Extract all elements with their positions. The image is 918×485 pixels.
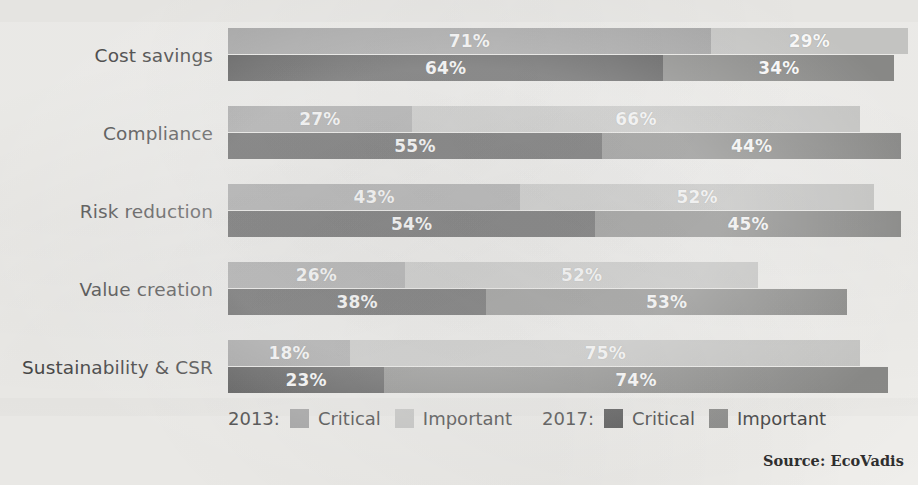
category-label: Compliance: [0, 123, 213, 144]
segment-value: 34%: [663, 55, 894, 81]
chart-legend: 2013: Critical Important 2017: Critical …: [228, 408, 840, 429]
category-label: Value creation: [0, 279, 213, 300]
segment-important-2013: 52%: [520, 184, 874, 210]
legend-label: Critical: [632, 408, 695, 429]
segment-critical-2013: 26%: [228, 262, 405, 288]
segment-important-2013: 29%: [711, 28, 908, 54]
legend-group-2017: Critical Important: [604, 408, 840, 429]
legend-item-critical-2017[interactable]: Critical: [604, 408, 695, 429]
legend-label: Important: [423, 408, 512, 429]
segment-important-2017: 74%: [384, 367, 887, 393]
segment-value: 53%: [486, 289, 846, 315]
segment-value: 66%: [412, 106, 861, 132]
segment-important-2013: 75%: [350, 340, 860, 366]
segment-critical-2017: 54%: [228, 211, 595, 237]
source-note: Source: EcoVadis: [763, 452, 904, 469]
category-label: Risk reduction: [0, 201, 213, 222]
legend-label: Important: [737, 408, 826, 429]
legend-item-important-2013[interactable]: Important: [395, 408, 512, 429]
legend-item-important-2017[interactable]: Important: [709, 408, 826, 429]
stacked-bar-chart: Cost savings 71% 29% 64% 34% Complia: [0, 0, 918, 485]
segment-critical-2017: 55%: [228, 133, 602, 159]
bar-group: 27% 66% 55% 44%: [228, 104, 908, 162]
segment-value: 64%: [228, 55, 663, 81]
segment-critical-2013: 18%: [228, 340, 350, 366]
bar-group: 26% 52% 38% 53%: [228, 260, 908, 318]
segment-value: 45%: [595, 211, 901, 237]
segment-critical-2017: 38%: [228, 289, 486, 315]
segment-important-2017: 34%: [663, 55, 894, 81]
chart-row: Value creation 26% 52% 38% 53%: [0, 260, 918, 318]
bar-2017: 23% 74%: [228, 367, 888, 393]
segment-important-2017: 45%: [595, 211, 901, 237]
bar-2013: 27% 66%: [228, 106, 860, 132]
segment-critical-2013: 43%: [228, 184, 520, 210]
segment-value: 29%: [711, 28, 908, 54]
segment-important-2017: 44%: [602, 133, 901, 159]
chart-row: Sustainability & CSR 18% 75% 23% 74%: [0, 338, 918, 396]
bar-2013: 71% 29%: [228, 28, 908, 54]
legend-swatch-critical-2017: [604, 409, 623, 428]
segment-critical-2017: 23%: [228, 367, 384, 393]
bar-2013: 26% 52%: [228, 262, 758, 288]
segment-important-2013: 66%: [412, 106, 861, 132]
bar-2017: 55% 44%: [228, 133, 901, 159]
legend-item-critical-2013[interactable]: Critical: [290, 408, 381, 429]
segment-critical-2013: 27%: [228, 106, 412, 132]
segment-value: 75%: [350, 340, 860, 366]
legend-swatch-critical-2013: [290, 409, 309, 428]
segment-critical-2013: 71%: [228, 28, 711, 54]
legend-label: Critical: [318, 408, 381, 429]
segment-value: 26%: [228, 262, 405, 288]
chart-row: Cost savings 71% 29% 64% 34%: [0, 26, 918, 84]
chart-row: Risk reduction 43% 52% 54% 45%: [0, 182, 918, 240]
bar-group: 18% 75% 23% 74%: [228, 338, 908, 396]
bar-2017: 38% 53%: [228, 289, 847, 315]
bar-2013: 43% 52%: [228, 184, 874, 210]
segment-value: 52%: [405, 262, 759, 288]
segment-value: 44%: [602, 133, 901, 159]
bar-group: 71% 29% 64% 34%: [228, 26, 908, 84]
legend-year-2017: 2017:: [542, 408, 594, 429]
bar-group: 43% 52% 54% 45%: [228, 182, 908, 240]
segment-value: 74%: [384, 367, 887, 393]
segment-important-2013: 52%: [405, 262, 759, 288]
category-label: Sustainability & CSR: [0, 357, 213, 378]
segment-important-2017: 53%: [486, 289, 846, 315]
segment-value: 43%: [228, 184, 520, 210]
segment-value: 38%: [228, 289, 486, 315]
segment-value: 52%: [520, 184, 874, 210]
segment-value: 71%: [228, 28, 711, 54]
segment-critical-2017: 64%: [228, 55, 663, 81]
legend-year-2013: 2013:: [228, 408, 280, 429]
bar-2017: 64% 34%: [228, 55, 894, 81]
category-label: Cost savings: [0, 45, 213, 66]
segment-value: 27%: [228, 106, 412, 132]
legend-swatch-important-2017: [709, 409, 728, 428]
segment-value: 55%: [228, 133, 602, 159]
segment-value: 18%: [228, 340, 350, 366]
segment-value: 23%: [228, 367, 384, 393]
bar-2017: 54% 45%: [228, 211, 901, 237]
legend-swatch-important-2013: [395, 409, 414, 428]
bar-2013: 18% 75%: [228, 340, 860, 366]
chart-row: Compliance 27% 66% 55% 44%: [0, 104, 918, 162]
legend-group-2013: Critical Important: [290, 408, 526, 429]
segment-value: 54%: [228, 211, 595, 237]
